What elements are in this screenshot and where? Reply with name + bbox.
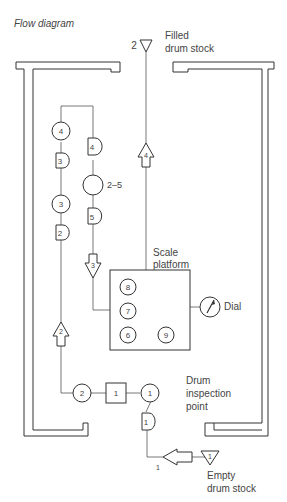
op-left-mid-num: 3 [59,200,64,209]
inspection-label-3: point [186,401,208,413]
delay-left-1-num: 3 [58,157,63,166]
scale-op-8-num: 8 [126,283,131,292]
transport-up-num: 4 [144,152,148,159]
delay-left-2-num: 2 [58,229,63,238]
scale-label-1: Scale [153,247,178,259]
dial-gauge-icon [200,297,220,317]
dial-label: Dial [224,301,241,313]
scale-op-7-num: 7 [126,307,131,316]
filled-stock-label-1: Filled [165,30,189,42]
filled-stock-num: 2 [131,40,137,51]
transport-left-num: 2 [59,328,63,335]
delay-right-2-num: 5 [90,213,95,222]
inspection-label-2: inspection [186,388,231,400]
op-inspection-num: 1 [148,389,153,398]
empty-stock-label-2: drum stock [207,483,256,495]
inspection-box-num: 1 [114,389,119,398]
transport-bottom-num: 1 [156,464,160,471]
flow-diagram-canvas: 4 3 3 2 2 4 5 3 4 8 7 6 9 2 1 1 1 1 1 2 … [0,0,287,502]
op-bottom-num: 2 [80,389,85,398]
storage-triangle-filled-icon [140,40,152,52]
op-right-combined-num: 2–5 [107,180,122,190]
delay-right-top-num: 4 [90,143,95,152]
empty-stock-label-1: Empty [207,470,235,482]
empty-stock-num: 1 [208,453,212,460]
inspection-label-1: Drum [186,375,210,387]
wall-left [16,62,120,436]
scale-op-6-num: 6 [126,331,131,340]
transport-arrow-left-icon [163,449,192,465]
scale-op-9-num: 9 [164,331,169,340]
transport-right-num: 3 [91,262,95,269]
filled-stock-label-2: drum stock [165,43,214,55]
scale-label-2: platform [153,259,189,271]
operation-circle-icon [83,175,103,195]
delay-bottom-num: 1 [144,418,149,427]
op-left-top-num: 4 [59,127,64,136]
